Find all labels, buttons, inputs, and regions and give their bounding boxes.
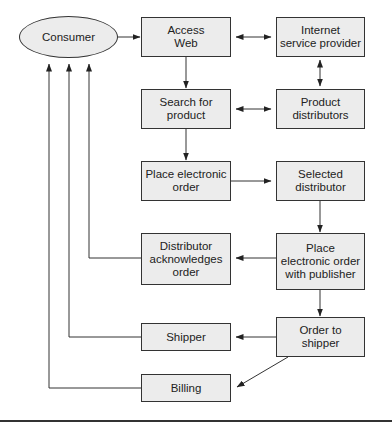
connector-layer [0,0,392,425]
node-consumer: Consumer [19,16,118,58]
node-place-electronic-order: Place electronic order [141,161,231,201]
node-distributor-acknowledges-order: Distributor acknowledges order [141,233,231,285]
edge-shipper-consumer [69,64,141,337]
node-order-to-shipper: Order to shipper [276,317,365,357]
node-access-web: Access Web [141,17,231,57]
node-billing: Billing [141,374,231,402]
edge-distributor-ack-consumer [89,64,141,258]
node-selected-distributor: Selected distributor [276,161,365,201]
node-internet-service-provider: Internet service provider [276,17,365,57]
edge-billing-consumer [49,64,141,388]
bottom-rule [0,420,392,422]
node-shipper: Shipper [141,323,231,351]
node-search-for-product: Search for product [141,89,231,129]
edge-order-to-shipper-billing [237,357,288,387]
node-product-distributors: Product distributors [276,89,365,129]
node-place-order-with-publisher: Place electronic order with publisher [276,233,365,290]
